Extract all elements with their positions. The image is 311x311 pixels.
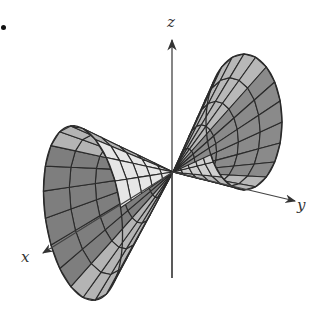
double-cone-3d-diagram: z x y <box>0 0 311 311</box>
x-axis-label: x <box>21 248 30 266</box>
z-axis-label: z <box>166 13 175 31</box>
y-axis-label: y <box>296 196 306 214</box>
right-cone-nappe <box>173 54 282 190</box>
